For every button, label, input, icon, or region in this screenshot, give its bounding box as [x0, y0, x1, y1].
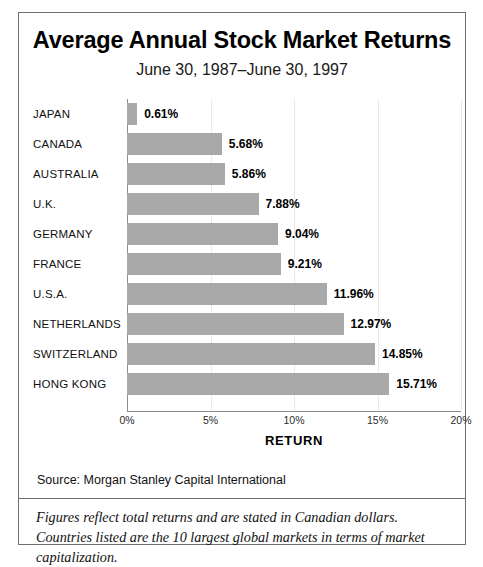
bar-track: 0.61%: [127, 99, 461, 129]
bar-value-label: 7.88%: [259, 193, 300, 215]
bar[interactable]: [127, 283, 327, 305]
bar-row: U.S.A.11.96%: [25, 279, 461, 309]
footnote-text: Figures reflect total returns and are st…: [36, 507, 451, 567]
bar-value-label: 9.21%: [281, 253, 322, 275]
bar-value-label: 0.61%: [137, 103, 178, 125]
chart-subtitle: June 30, 1987–June 30, 1997: [19, 61, 465, 79]
category-label: CANADA: [33, 129, 121, 159]
x-axis-title: RETURN: [127, 433, 461, 448]
bar-row: JAPAN0.61%: [25, 99, 461, 129]
category-label: SWITZERLAND: [33, 339, 121, 369]
category-label: JAPAN: [33, 99, 121, 129]
x-tick-label: 20%: [450, 414, 471, 426]
bar-track: 5.86%: [127, 159, 461, 189]
bar[interactable]: [127, 193, 259, 215]
bar-row: FRANCE9.21%: [25, 249, 461, 279]
gridline-20%: [461, 99, 462, 411]
bar-value-label: 14.85%: [375, 343, 423, 365]
x-tick-label: 15%: [367, 414, 388, 426]
bar-value-label: 12.97%: [344, 313, 392, 335]
bar-track: 15.71%: [127, 369, 461, 399]
category-label: HONG KONG: [33, 369, 121, 399]
bar-track: 9.04%: [127, 219, 461, 249]
bar[interactable]: [127, 313, 344, 335]
bar[interactable]: [127, 163, 225, 185]
bar-track: 14.85%: [127, 339, 461, 369]
category-label: U.S.A.: [33, 279, 121, 309]
bar-track: 11.96%: [127, 279, 461, 309]
bar[interactable]: [127, 133, 222, 155]
bar-value-label: 5.86%: [225, 163, 266, 185]
bar-row: SWITZERLAND14.85%: [25, 339, 461, 369]
chart-figure-frame: Average Annual Stock Market Returns June…: [18, 12, 466, 545]
footnote-divider: [19, 498, 465, 499]
x-tick-label: 0%: [119, 414, 134, 426]
plot-area: JAPAN0.61%CANADA5.68%AUSTRALIA5.86%U.K.7…: [25, 99, 461, 429]
category-label: FRANCE: [33, 249, 121, 279]
bar-value-label: 9.04%: [278, 223, 319, 245]
x-axis-tick-labels: 0%5%10%15%20%: [127, 414, 461, 430]
bar-row: CANADA5.68%: [25, 129, 461, 159]
x-tick-label: 5%: [203, 414, 218, 426]
bar-value-label: 15.71%: [389, 373, 437, 395]
bar-track: 5.68%: [127, 129, 461, 159]
bar[interactable]: [127, 253, 281, 275]
bar-row: GERMANY9.04%: [25, 219, 461, 249]
x-tick-label: 10%: [283, 414, 304, 426]
bar[interactable]: [127, 373, 389, 395]
bar-track: 12.97%: [127, 309, 461, 339]
bar-row: HONG KONG15.71%: [25, 369, 461, 399]
bar[interactable]: [127, 223, 278, 245]
bar-row: NETHERLANDS12.97%: [25, 309, 461, 339]
bar[interactable]: [127, 343, 375, 365]
bar-value-label: 11.96%: [327, 283, 374, 305]
category-label: GERMANY: [33, 219, 121, 249]
x-axis-line: [127, 411, 461, 412]
bar-track: 9.21%: [127, 249, 461, 279]
bar-row: U.K.7.88%: [25, 189, 461, 219]
source-label: Source: Morgan Stanley Capital Internati…: [37, 473, 286, 487]
category-label: U.K.: [33, 189, 121, 219]
bar-value-label: 5.68%: [222, 133, 263, 155]
category-label: AUSTRALIA: [33, 159, 121, 189]
bar-row: AUSTRALIA5.86%: [25, 159, 461, 189]
chart-title: Average Annual Stock Market Returns: [19, 27, 465, 54]
bar-track: 7.88%: [127, 189, 461, 219]
bar[interactable]: [127, 103, 137, 125]
category-label: NETHERLANDS: [33, 309, 121, 339]
